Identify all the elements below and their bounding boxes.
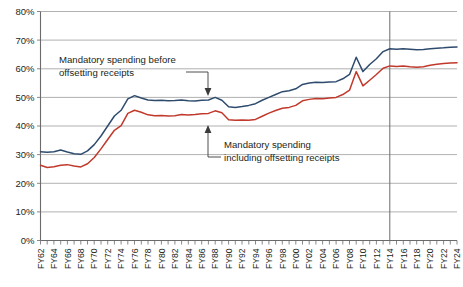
x-axis-label-FY96: FY96	[264, 248, 274, 269]
annotation-before-receipts-line2: offsetting receipts	[59, 67, 134, 78]
x-axis-label-FY94: FY94	[251, 248, 261, 269]
x-axis-label-FY84: FY84	[184, 248, 194, 269]
x-axis-label-FY64: FY64	[49, 248, 59, 269]
x-axis-label-FY12: FY12	[372, 248, 382, 269]
y-axis-label-40%: 40%	[15, 120, 35, 131]
y-axis-tick-labels: 0%10%20%30%40%50%60%70%80%	[15, 6, 35, 246]
y-axis-label-50%: 50%	[15, 92, 35, 103]
x-axis-label-FY14: FY14	[385, 248, 395, 269]
x-axis-label-FY80: FY80	[157, 248, 167, 269]
x-axis-label-FY08: FY08	[345, 248, 355, 269]
x-axis-label-FY04: FY04	[318, 248, 328, 269]
x-axis-label-FY98: FY98	[278, 248, 288, 269]
x-axis-label-FY06: FY06	[331, 248, 341, 269]
x-axis-label-FY70: FY70	[89, 248, 99, 269]
annotation-including-receipts-line2: including offsetting receipts	[224, 152, 340, 163]
x-axis-label-FY92: FY92	[237, 248, 247, 269]
x-axis-label-FY62: FY62	[36, 248, 46, 269]
y-axis-label-70%: 70%	[15, 35, 35, 46]
x-axis-label-FY68: FY68	[76, 248, 86, 269]
x-axis-label-FY00: FY00	[291, 248, 301, 269]
x-axis-label-FY18: FY18	[412, 248, 422, 269]
annotation-before-receipts-line1: Mandatory spending before	[59, 54, 176, 65]
x-axis-label-FY86: FY86	[197, 248, 207, 269]
x-axis-label-FY22: FY22	[439, 248, 449, 269]
y-axis-label-0%: 0%	[21, 235, 35, 246]
x-axis-label-FY02: FY02	[304, 248, 314, 269]
x-axis-label-FY82: FY82	[170, 248, 180, 269]
y-axis-label-20%: 20%	[15, 178, 35, 189]
x-axis-label-FY20: FY20	[425, 248, 435, 269]
x-axis-label-FY74: FY74	[116, 248, 126, 269]
x-axis-label-FY10: FY10	[358, 248, 368, 269]
x-axis-label-FY76: FY76	[130, 248, 140, 269]
y-axis-label-10%: 10%	[15, 206, 35, 217]
y-axis-label-80%: 80%	[15, 6, 35, 17]
x-axis-label-FY78: FY78	[143, 248, 153, 269]
x-axis-label-FY66: FY66	[63, 248, 73, 269]
annotation-including-receipts-line1: Mandatory spending	[224, 139, 311, 150]
x-axis-label-FY72: FY72	[103, 248, 113, 269]
y-axis-label-60%: 60%	[15, 63, 35, 74]
x-axis-label-FY90: FY90	[224, 248, 234, 269]
x-axis-label-FY88: FY88	[210, 248, 220, 269]
line-chart: 0%10%20%30%40%50%60%70%80% FY62FY64FY66F…	[0, 0, 463, 287]
y-axis-label-30%: 30%	[15, 149, 35, 160]
x-axis-label-FY16: FY16	[399, 248, 409, 269]
chart-container: 0%10%20%30%40%50%60%70%80% FY62FY64FY66F…	[0, 0, 463, 287]
x-axis-label-FY24: FY24	[452, 248, 462, 269]
